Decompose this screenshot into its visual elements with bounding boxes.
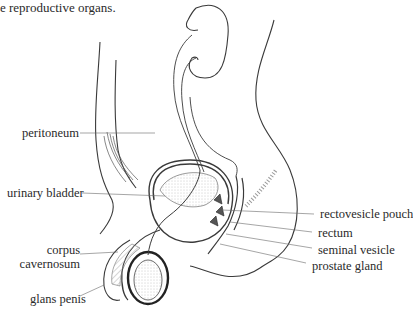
ureter — [174, 35, 237, 176]
kidney — [186, 5, 228, 78]
label-rectovesicle-pouch: rectovesicle pouch — [320, 207, 413, 221]
label-peritoneum: peritoneum — [22, 126, 79, 140]
bladder-stipple — [160, 173, 218, 207]
label-seminal-vesicle: seminal vesicle — [318, 243, 395, 257]
peritoneal-lines — [104, 132, 138, 182]
testis — [128, 252, 168, 304]
label-rectum: rectum — [318, 226, 353, 240]
label-corpus-cavernosum-2: cavernosum — [14, 257, 80, 271]
body-outline — [95, 20, 297, 277]
anal-sphincter — [246, 170, 276, 206]
label-corpus-cavernosum-1: corpus — [44, 243, 80, 257]
label-prostate-gland: prostate gland — [312, 259, 382, 273]
label-urinary-bladder: urinary bladder — [7, 186, 84, 200]
label-glans-penis: glans penis — [30, 292, 86, 306]
